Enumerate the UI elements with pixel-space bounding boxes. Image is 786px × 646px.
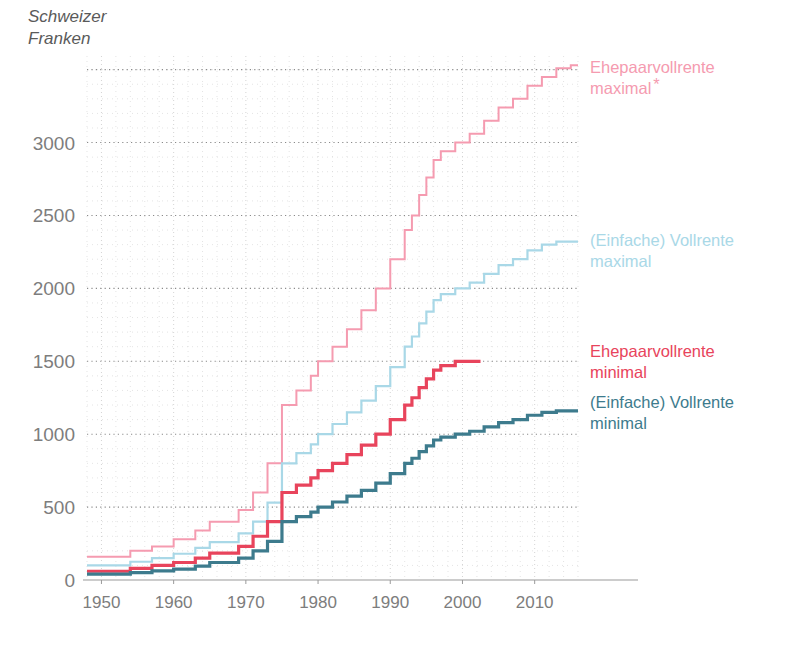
- series-label-line2: maximal: [590, 79, 651, 97]
- series-label-line1: (Einfache) Vollrente: [590, 393, 734, 411]
- y-axis-tick-label: 0: [64, 570, 75, 591]
- y-axis-title-line2: Franken: [28, 29, 90, 48]
- series-label-line1: (Einfache) Vollrente: [590, 231, 734, 249]
- series-label-line2: minimal: [590, 363, 647, 381]
- y-axis-tick-labels: 050010001500200025003000: [33, 133, 75, 591]
- chart-container: 050010001500200025003000 195019601970198…: [0, 0, 786, 646]
- x-axis-tick-label: 1980: [299, 593, 337, 612]
- x-axis-tick-label: 2000: [444, 593, 482, 612]
- y-axis-tick-label: 1000: [33, 424, 75, 445]
- series-line-3: [87, 361, 481, 571]
- rent-development-line-chart: 050010001500200025003000 195019601970198…: [0, 0, 786, 646]
- x-axis-tick-label: 2010: [516, 593, 554, 612]
- x-axis-tick-label: 1950: [83, 593, 121, 612]
- axis-lines: [83, 580, 638, 584]
- series-line-1: [87, 65, 578, 556]
- y-axis-tick-label: 3000: [33, 133, 75, 154]
- series-label-line1: Ehepaarvollrente: [590, 58, 715, 76]
- series-label-line2: maximal: [590, 252, 651, 270]
- y-axis-title-line1: Schweizer: [28, 7, 108, 26]
- series-label-line1: Ehepaarvollrente: [590, 342, 715, 360]
- series-label-footnote-marker: *: [653, 75, 660, 93]
- x-axis-tick-label: 1960: [155, 593, 193, 612]
- y-axis-tick-label: 2000: [33, 278, 75, 299]
- x-axis-tick-label: 1990: [371, 593, 409, 612]
- x-axis-tick-labels: 1950196019701980199020002010: [83, 593, 554, 612]
- series-inline-labels: Ehepaarvollrentemaximal*(Einfache) Vollr…: [590, 58, 734, 432]
- y-axis-tick-label: 1500: [33, 351, 75, 372]
- x-axis-tick-label: 1970: [227, 593, 265, 612]
- y-axis-tick-label: 500: [43, 497, 75, 518]
- series-label-line2: minimal: [590, 414, 647, 432]
- y-axis-tick-label: 2500: [33, 205, 75, 226]
